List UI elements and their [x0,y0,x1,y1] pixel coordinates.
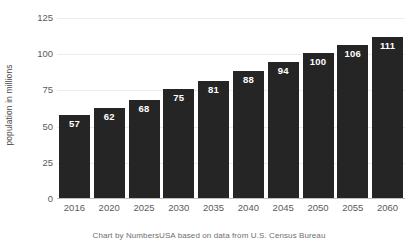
x-axis-tick-label: 2020 [90,203,128,213]
bar-value-label: 81 [198,85,229,95]
bar[interactable]: 75 [163,89,194,198]
x-axis-tick-label: 2055 [334,203,372,213]
y-axis-tick-label: 100 [7,49,53,59]
bar-slot: 62 [94,18,125,198]
bar-value-label: 57 [59,119,90,129]
y-axis-tick-label: 75 [7,86,53,96]
bar-value-label: 68 [129,104,160,114]
x-axis-line [57,198,405,199]
bar-slot: 57 [59,18,90,198]
x-axis-tick-label: 2040 [229,203,267,213]
y-axis-tick-label: 125 [7,13,53,23]
x-axis-tick-label: 2025 [125,203,163,213]
bar[interactable]: 100 [303,53,334,198]
bar-slot: 94 [268,18,299,198]
bar[interactable]: 88 [233,71,264,198]
y-axis-tick-label: 25 [7,158,53,168]
bar-slot: 75 [163,18,194,198]
x-axis-tick-labels: 2016202020252030203520402045205020552060 [57,203,405,217]
chart-caption: Chart by NumbersUSA based on data from U… [0,231,418,240]
x-axis-tick-label: 2030 [160,203,198,213]
x-axis-tick-label: 2050 [299,203,337,213]
bar-value-label: 88 [233,75,264,85]
bar-slot: 100 [303,18,334,198]
x-axis-tick-label: 2045 [264,203,302,213]
plot-area: 57626875818894100106111 [57,18,405,199]
bars-layer: 57626875818894100106111 [57,18,405,198]
x-axis-tick-label: 2016 [55,203,93,213]
bar-slot: 68 [129,18,160,198]
bar[interactable]: 94 [268,62,299,198]
bar-slot: 81 [198,18,229,198]
bar-value-label: 62 [94,112,125,122]
x-axis-tick-label: 2060 [369,203,407,213]
bar[interactable]: 106 [337,45,368,198]
y-axis-tick-label: 50 [7,122,53,132]
bar-slot: 111 [372,18,403,198]
x-axis-tick-label: 2035 [195,203,233,213]
bar[interactable]: 57 [59,115,90,198]
bar[interactable]: 62 [94,108,125,198]
bar-value-label: 94 [268,66,299,76]
bar[interactable]: 111 [372,37,403,198]
y-axis-tick-labels: 0255075100125 [0,18,53,199]
bar-chart: population in millions 0255075100125 576… [0,0,418,247]
bar-value-label: 111 [372,41,403,51]
bar-value-label: 100 [303,57,334,67]
bar-slot: 106 [337,18,368,198]
y-axis-tick-label: 0 [7,194,53,204]
bar-value-label: 106 [337,49,368,59]
bar-slot: 88 [233,18,264,198]
bar-value-label: 75 [163,93,194,103]
bar[interactable]: 68 [129,100,160,198]
bar[interactable]: 81 [198,81,229,198]
